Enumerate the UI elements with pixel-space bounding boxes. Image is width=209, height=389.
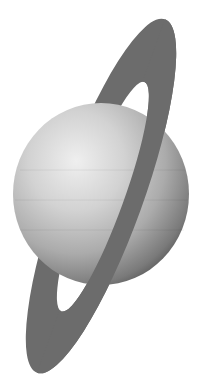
planet-graphic xyxy=(0,0,209,389)
planet-illustration: Ringed planet (Uranus-like) illustration xyxy=(0,0,209,389)
